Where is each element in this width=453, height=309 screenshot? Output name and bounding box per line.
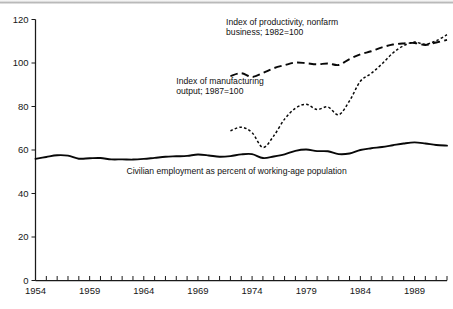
annotation-group: Index of productivity, nonfarmbusiness; … <box>126 17 346 176</box>
x-axis: 19541959196419691974197919841989 <box>25 276 447 296</box>
y-axis-tick-label: 60 <box>18 144 29 155</box>
annotation-line: output; 1987=100 <box>176 86 243 96</box>
series-line <box>36 142 448 159</box>
y-axis-tick-label: 20 <box>18 231 29 242</box>
data-series-group <box>36 35 448 160</box>
line-chart: 020406080100120 195419591964196919741979… <box>0 0 453 309</box>
x-axis-tick-label: 1959 <box>79 285 100 296</box>
series-annotation: Civilian employment as percent of workin… <box>126 166 346 176</box>
chart-canvas: 020406080100120 195419591964196919741979… <box>0 0 453 309</box>
y-axis-tick-label: 120 <box>13 14 29 25</box>
x-axis-tick-label: 1974 <box>242 285 263 296</box>
y-axis-tick-label: 40 <box>18 188 29 199</box>
x-axis-tick-label: 1969 <box>187 285 208 296</box>
series-line <box>230 40 447 77</box>
y-axis: 020406080100120 <box>13 14 36 286</box>
x-axis-tick-label: 1979 <box>296 285 317 296</box>
series-line <box>230 35 447 148</box>
x-axis-tick-label: 1954 <box>25 285 46 296</box>
annotation-line: business; 1982=100 <box>226 27 303 37</box>
annotation-line: Index of productivity, nonfarm <box>226 17 338 27</box>
x-axis-tick-label: 1989 <box>404 285 425 296</box>
y-axis-tick-label: 100 <box>13 57 29 68</box>
annotation-line: Index of manufacturing <box>176 76 264 86</box>
x-axis-tick-label: 1964 <box>133 285 154 296</box>
x-axis-tick-label: 1984 <box>350 285 371 296</box>
annotation-line: Civilian employment as percent of workin… <box>126 166 346 176</box>
series-annotation: Index of productivity, nonfarmbusiness; … <box>226 17 338 38</box>
series-annotation: Index of manufacturingoutput; 1987=100 <box>176 76 264 97</box>
y-axis-tick-label: 80 <box>18 101 29 112</box>
